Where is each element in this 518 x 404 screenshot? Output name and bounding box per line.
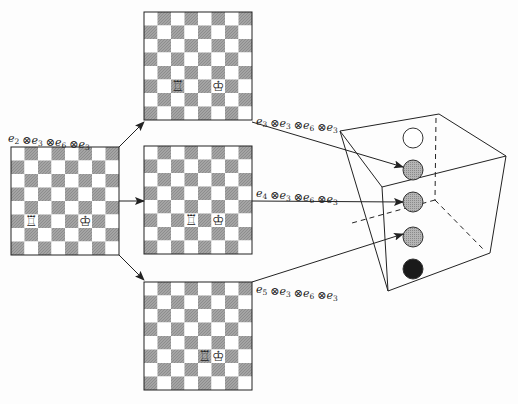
- board-square: [144, 363, 158, 377]
- board-square: [52, 174, 66, 188]
- board-square: [25, 242, 39, 256]
- gray-state-3-icon: [403, 227, 423, 247]
- board-square: [106, 242, 120, 256]
- board-square: [25, 228, 39, 242]
- chess-board-source: ♖♔: [11, 147, 119, 255]
- board-square: [225, 241, 239, 255]
- board-square: [92, 147, 106, 161]
- cube-edge: [490, 156, 506, 253]
- board-square: [225, 66, 239, 80]
- board-square: [144, 323, 158, 337]
- board-square: [11, 228, 25, 242]
- board-square: [144, 53, 158, 67]
- diagram-svg: ♖♔♖♔♖♔♖♔ e2⊗e3⊗e6⊗e3e3⊗e3⊗e6⊗e3e4⊗e3⊗e6⊗…: [0, 0, 518, 404]
- board-square: [171, 146, 185, 160]
- board-square: [212, 146, 226, 160]
- board-square: [198, 309, 212, 323]
- board-square: [65, 174, 79, 188]
- board-square: [92, 201, 106, 215]
- board-square: [52, 215, 66, 229]
- board-square: [225, 309, 239, 323]
- board-square: [158, 309, 172, 323]
- board-square: [239, 12, 253, 26]
- board-square: [212, 227, 226, 241]
- board-square: [79, 188, 93, 202]
- board-square: [212, 107, 226, 121]
- board-square: [144, 107, 158, 121]
- board-square: [239, 214, 253, 228]
- board-square: [158, 66, 172, 80]
- board-square: [171, 187, 185, 201]
- board-square: [171, 282, 185, 296]
- board-square: [11, 242, 25, 256]
- board-square: [198, 363, 212, 377]
- board-square: [225, 350, 239, 364]
- board-square: [171, 160, 185, 174]
- board-square: [25, 174, 39, 188]
- board-square: [65, 242, 79, 256]
- chess-board-top: ♖♔: [144, 12, 252, 120]
- board-square: [38, 161, 52, 175]
- board-square: [185, 12, 199, 26]
- board-square: [38, 242, 52, 256]
- board-square: [239, 350, 253, 364]
- board-square: [185, 241, 199, 255]
- board-square: [171, 377, 185, 391]
- board-square: [92, 161, 106, 175]
- board-square: [225, 296, 239, 310]
- board-square: [158, 227, 172, 241]
- arrow-to-top: [119, 122, 144, 147]
- board-square: [171, 26, 185, 40]
- board-square: [158, 363, 172, 377]
- board-square: [144, 26, 158, 40]
- board-square: [225, 12, 239, 26]
- board-square: [106, 201, 120, 215]
- board-square: [144, 309, 158, 323]
- board-square: [198, 227, 212, 241]
- board-square: [92, 228, 106, 242]
- board-square: [144, 173, 158, 187]
- board-square: [212, 187, 226, 201]
- state-cube: [340, 114, 506, 291]
- board-square: [158, 160, 172, 174]
- board-square: [185, 93, 199, 107]
- board-square: [144, 350, 158, 364]
- board-square: [65, 161, 79, 175]
- board-square: [11, 174, 25, 188]
- board-square: [92, 215, 106, 229]
- board-square: [65, 215, 79, 229]
- board-square: [212, 377, 226, 391]
- board-square: [198, 53, 212, 67]
- board-square: [11, 161, 25, 175]
- board-square: [239, 26, 253, 40]
- king-piece-icon: ♔: [79, 213, 92, 229]
- board-square: [198, 93, 212, 107]
- board-square: [158, 200, 172, 214]
- board-square: [158, 146, 172, 160]
- board-square: [198, 323, 212, 337]
- board-square: [198, 296, 212, 310]
- board-square: [144, 296, 158, 310]
- board-square: [144, 39, 158, 53]
- board-square: [171, 309, 185, 323]
- board-square: [212, 363, 226, 377]
- board-square: [239, 323, 253, 337]
- board-square: [158, 296, 172, 310]
- board-square: [144, 377, 158, 391]
- board-square: [38, 174, 52, 188]
- board-square: [158, 336, 172, 350]
- board-square: [38, 188, 52, 202]
- board-square: [185, 363, 199, 377]
- board-square: [106, 147, 120, 161]
- board-square: [198, 282, 212, 296]
- board-square: [171, 214, 185, 228]
- board-square: [198, 39, 212, 53]
- board-square: [198, 241, 212, 255]
- board-square: [65, 201, 79, 215]
- board-square: [65, 228, 79, 242]
- board-square: [106, 215, 120, 229]
- king-piece-icon: ♔: [212, 78, 225, 94]
- board-square: [225, 160, 239, 174]
- board-square: [171, 39, 185, 53]
- board-square: [239, 39, 253, 53]
